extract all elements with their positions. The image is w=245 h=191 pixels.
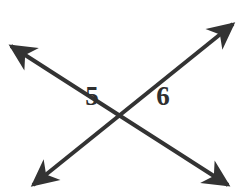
line-lower-left-to-upper-right bbox=[33, 24, 233, 185]
diagram-canvas bbox=[0, 0, 245, 191]
angle-label-5: 5 bbox=[85, 83, 99, 110]
angle-label-6: 6 bbox=[156, 83, 170, 110]
line-group bbox=[11, 24, 233, 185]
angle-diagram-figure: 5 6 bbox=[0, 0, 245, 191]
